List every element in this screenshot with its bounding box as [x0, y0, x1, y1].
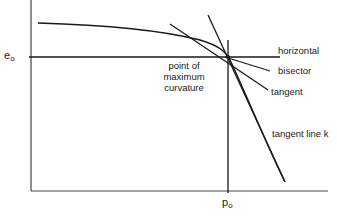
tangent-line-k-label: tangent line k [272, 128, 329, 139]
y-axis-label: eo [4, 50, 15, 64]
bisector-label: bisector [278, 65, 311, 76]
horizontal-label: horizontal [278, 45, 319, 56]
x-axis-label: po [222, 197, 233, 211]
diagram-canvas [0, 0, 337, 219]
y-label-subscript: o [10, 54, 14, 63]
point-of-max-curvature-label: point of maximum curvature [155, 60, 213, 93]
tangent-line-k [208, 15, 285, 182]
max-curvature-point [226, 55, 230, 59]
label-line-1: point of [155, 60, 213, 71]
label-line-3: curvature [155, 82, 213, 93]
tangent-label: tangent [271, 86, 303, 97]
x-label-subscript: o [228, 201, 232, 210]
label-line-2: maximum [155, 71, 213, 82]
